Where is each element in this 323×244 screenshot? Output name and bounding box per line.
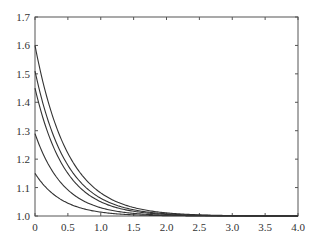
x-tick-label: 2.5: [193, 221, 207, 233]
series-line-curve-2: [35, 71, 298, 216]
x-axis: 00.51.01.52.02.53.03.54.0: [32, 17, 305, 233]
y-tick-label: 1.6: [16, 39, 30, 51]
y-tick-label: 1.1: [16, 182, 30, 194]
x-tick-label: 0.5: [61, 221, 75, 233]
y-tick-label: 1.4: [16, 96, 30, 108]
x-tick-label: 0: [32, 221, 38, 233]
x-tick-label: 3.5: [258, 221, 272, 233]
y-axis: 1.01.11.21.31.41.51.61.7: [16, 11, 298, 222]
series-line-curve-1: [35, 45, 298, 216]
y-tick-label: 1.7: [16, 11, 30, 23]
x-tick-label: 3.0: [225, 221, 239, 233]
x-tick-label: 1.5: [127, 221, 141, 233]
y-tick-label: 1.2: [16, 153, 30, 165]
y-tick-label: 1.3: [16, 125, 30, 137]
x-tick-label: 2.0: [160, 221, 174, 233]
x-tick-label: 1.0: [94, 221, 108, 233]
y-tick-label: 1.0: [16, 210, 30, 222]
plot-border: [35, 17, 298, 216]
line-chart: 1.01.11.21.31.41.51.61.7 00.51.01.52.02.…: [0, 0, 323, 244]
data-series: [35, 45, 298, 216]
x-tick-label: 4.0: [291, 221, 305, 233]
series-line-curve-3: [35, 88, 298, 216]
y-tick-label: 1.5: [16, 68, 30, 80]
plot-frame: [35, 17, 298, 216]
